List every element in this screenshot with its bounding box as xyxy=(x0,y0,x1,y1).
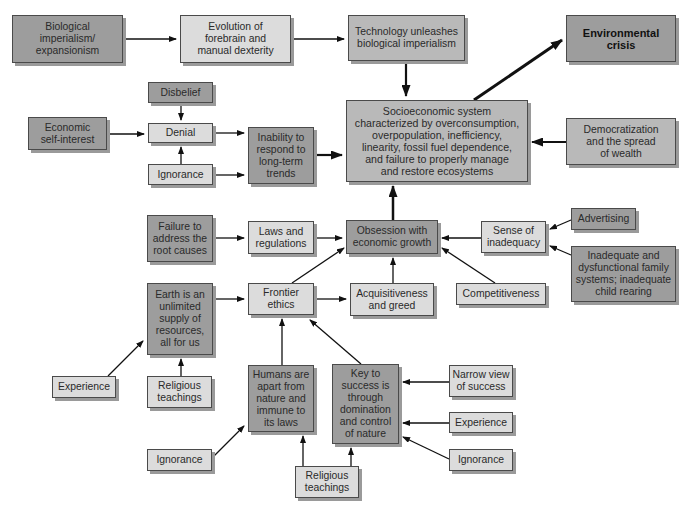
node-religious-teachings-bottom: Religious teachings xyxy=(295,466,359,498)
node-frontier-ethics: Frontier ethics xyxy=(248,283,314,315)
edge-socioeconomic-to-crisis xyxy=(474,40,562,100)
node-earth-unlimited: Earth is an unlimited supply of resource… xyxy=(147,283,213,355)
node-ignorance-top: Ignorance xyxy=(148,164,213,185)
node-advertising: Advertising xyxy=(571,208,636,230)
node-label: Sense of inadequacy xyxy=(487,225,540,249)
node-label: Technology unleashes biological imperial… xyxy=(355,26,458,50)
node-label: Disbelief xyxy=(161,87,201,99)
node-environmental-crisis: Environmental crisis xyxy=(566,15,676,62)
node-label: Denial xyxy=(166,127,195,139)
node-biological-imperialism: Biological imperialism/ expansionism xyxy=(12,15,123,63)
edge-competitiveness-to-obsession xyxy=(442,248,495,283)
node-key-to-success: Key to success is through domination and… xyxy=(332,364,399,444)
node-experience-left: Experience xyxy=(52,376,116,398)
edge-family-to-inadequacy xyxy=(550,246,571,255)
node-label: Narrow view of success xyxy=(452,369,509,393)
node-technology-unleashes: Technology unleashes biological imperial… xyxy=(348,15,465,61)
node-label: Acquisitiveness and greed xyxy=(356,288,428,312)
node-label: Frontier ethics xyxy=(263,287,299,311)
node-humans-apart: Humans are apart from nature and immune … xyxy=(248,365,314,432)
environmental-crisis-causes-diagram: Biological imperialism/ expansionism Evo… xyxy=(0,0,690,512)
node-label: Experience xyxy=(58,381,110,393)
node-failure-root-causes: Failure to address the root causes xyxy=(147,215,213,262)
node-narrow-view: Narrow view of success xyxy=(449,365,513,397)
node-label: Inability to respond to long-term trends xyxy=(256,132,305,180)
node-label: Democratization and the spread of wealth xyxy=(583,124,658,160)
node-label: Ignorance xyxy=(458,454,504,466)
node-competitiveness: Competitiveness xyxy=(456,283,546,305)
edge-key-to-frontier xyxy=(310,320,361,364)
node-religious-teachings-left: Religious teachings xyxy=(147,376,212,408)
node-laws-regulations: Laws and regulations xyxy=(248,221,314,254)
node-sense-of-inadequacy: Sense of inadequacy xyxy=(481,221,546,253)
edge-advertising-to-inadequacy xyxy=(550,220,571,229)
node-label: Evolution of forebrain and manual dexter… xyxy=(197,21,273,57)
node-disbelief: Disbelief xyxy=(148,82,213,103)
node-label: Religious teachings xyxy=(305,470,349,494)
node-experience-right: Experience xyxy=(449,412,513,433)
node-label: Key to success is through domination and… xyxy=(340,368,391,440)
node-inability-to-respond: Inability to respond to long-term trends xyxy=(248,127,314,184)
node-label: Ignorance xyxy=(156,454,202,466)
edge-ignorance-to-humans xyxy=(212,426,244,458)
node-label: Experience xyxy=(455,417,507,429)
node-label: Environmental crisis xyxy=(583,27,659,51)
node-label: Religious teachings xyxy=(157,380,201,404)
node-ignorance-bottom: Ignorance xyxy=(147,449,212,471)
node-democratization: Democratization and the spread of wealth xyxy=(566,118,676,165)
node-economic-self-interest: Economic self-interest xyxy=(28,117,107,150)
node-label: Economic self-interest xyxy=(41,122,95,146)
node-label: Socioeconomic system characterized by ov… xyxy=(355,105,519,177)
node-acquisitiveness: Acquisitiveness and greed xyxy=(350,283,434,316)
node-ignorance-right: Ignorance xyxy=(449,449,513,471)
node-inadequate-family: Inadequate and dysfunctional family syst… xyxy=(571,246,676,302)
node-socioeconomic-system: Socioeconomic system characterized by ov… xyxy=(346,100,528,182)
edge-experience-to-earth xyxy=(108,341,143,376)
node-label: Advertising xyxy=(578,213,629,225)
node-label: Competitiveness xyxy=(463,288,540,300)
node-label: Failure to address the root causes xyxy=(153,221,207,257)
node-label: Obsession with economic growth xyxy=(353,225,432,249)
node-label: Inadequate and dysfunctional family syst… xyxy=(576,250,671,298)
node-label: Ignorance xyxy=(157,169,203,181)
node-label: Laws and regulations xyxy=(256,226,307,250)
node-label: Earth is an unlimited supply of resource… xyxy=(155,289,205,349)
edge-ignorance-to-key xyxy=(403,437,449,459)
node-denial: Denial xyxy=(148,123,213,143)
node-label: Biological imperialism/ expansionism xyxy=(36,21,100,57)
node-obsession-growth: Obsession with economic growth xyxy=(346,220,438,254)
node-evolution-forebrain: Evolution of forebrain and manual dexter… xyxy=(180,15,291,63)
node-label: Humans are apart from nature and immune … xyxy=(253,369,310,429)
